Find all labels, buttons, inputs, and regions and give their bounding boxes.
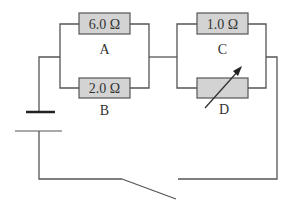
wire-left-top — [39, 57, 60, 112]
resistor-c-label: C — [218, 42, 227, 57]
wire-left-bottom — [39, 131, 122, 179]
wire-ab-left — [60, 24, 79, 88]
wire-ab-right — [130, 24, 149, 88]
resistor-a-value: 6.0 Ω — [89, 17, 120, 32]
parallel-block-ab: 6.0 Ω A 2.0 Ω B — [60, 13, 149, 118]
switch-open — [122, 179, 176, 199]
resistor-b-value: 2.0 Ω — [89, 81, 120, 96]
resistor-c-value: 1.0 Ω — [207, 17, 238, 32]
wire-cd-right — [248, 24, 266, 88]
parallel-block-cd: 1.0 Ω C D — [177, 13, 266, 117]
wire-cd-left — [177, 24, 197, 88]
resistor-d-label: D — [219, 102, 229, 117]
resistor-b-label: B — [100, 103, 109, 118]
resistor-a-label: A — [99, 42, 110, 57]
wire-right-return — [178, 57, 277, 179]
circuit-diagram: 6.0 Ω A 2.0 Ω B 1.0 Ω C D — [0, 0, 290, 211]
